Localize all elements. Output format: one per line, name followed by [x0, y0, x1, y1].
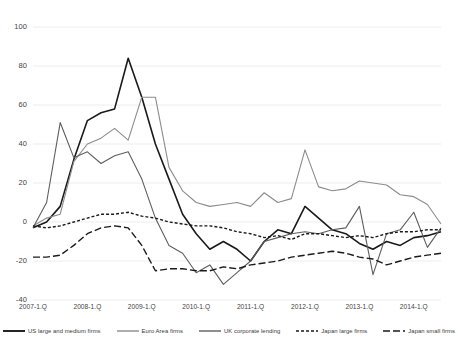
- x-tick-label: 2011-1.Q: [226, 303, 276, 310]
- legend-swatch-japan-small-firms: [383, 327, 405, 335]
- y-tick-label: 80: [1, 61, 27, 70]
- x-tick-label: 2008-1.Q: [62, 303, 112, 310]
- series-line-japan-large-firms: [33, 212, 441, 239]
- legend-swatch-us-large-and-medium-firms: [3, 327, 25, 335]
- chart-legend: US large and medium firmsEuro Area firms…: [0, 322, 458, 340]
- series-line-uk-corporate-lending: [33, 123, 441, 285]
- legend-swatch-japan-large-firms: [296, 327, 318, 335]
- x-tick-label: 2007-1.Q: [8, 303, 58, 310]
- legend-swatch-uk-corporate-lending: [199, 327, 221, 335]
- x-tick-label: 2012-1.Q: [280, 303, 330, 310]
- series-line-us-large-and-medium-firms: [33, 58, 441, 261]
- y-tick-label: 40: [1, 139, 27, 148]
- chart-container: -40-20020406080100 2007-1.Q2008-1.Q2009-…: [0, 0, 458, 346]
- legend-item-japan-small-firms[interactable]: Japan small firms: [383, 327, 455, 335]
- y-tick-label: 100: [1, 22, 27, 31]
- y-tick-label: 0: [1, 217, 27, 226]
- chart-plot-area: [0, 0, 458, 346]
- x-tick-label: 2009-1.Q: [117, 303, 167, 310]
- x-tick-label: 2010-1.Q: [171, 303, 221, 310]
- y-tick-label: -20: [1, 256, 27, 265]
- legend-item-uk-corporate-lending[interactable]: UK corporate lending: [199, 327, 280, 335]
- legend-label-euro-area-firms: Euro Area firms: [142, 328, 183, 334]
- y-tick-label: 20: [1, 178, 27, 187]
- legend-item-japan-large-firms[interactable]: Japan large firms: [296, 327, 367, 335]
- legend-label-japan-large-firms: Japan large firms: [321, 328, 367, 334]
- legend-item-us-large-and-medium-firms[interactable]: US large and medium firms: [3, 327, 101, 335]
- x-tick-label: 2013-1.Q: [334, 303, 384, 310]
- legend-swatch-euro-area-firms: [117, 327, 139, 335]
- y-tick-label: 60: [1, 100, 27, 109]
- series-line-japan-small-firms: [33, 226, 441, 271]
- x-tick-label: 2014-1.Q: [389, 303, 439, 310]
- legend-label-uk-corporate-lending: UK corporate lending: [224, 328, 280, 334]
- legend-label-us-large-and-medium-firms: US large and medium firms: [28, 328, 101, 334]
- legend-label-japan-small-firms: Japan small firms: [408, 328, 455, 334]
- legend-item-euro-area-firms[interactable]: Euro Area firms: [117, 327, 183, 335]
